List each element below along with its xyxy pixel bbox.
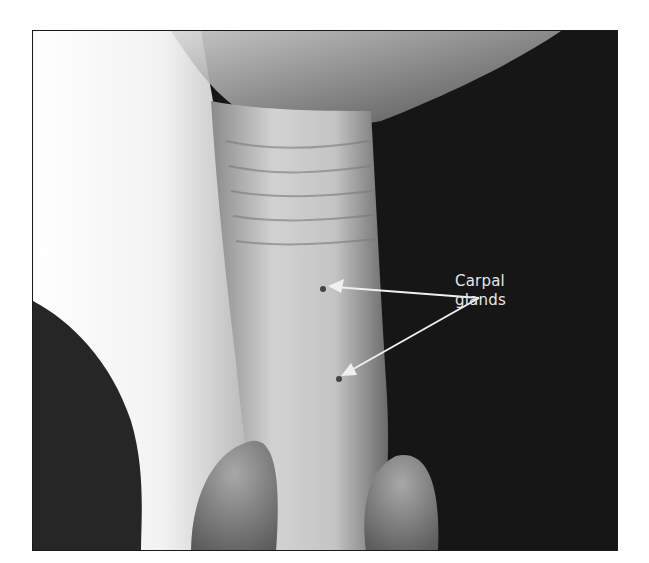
label-line-2: glands: [455, 291, 506, 310]
gland-spot-upper: [320, 286, 326, 292]
carpal-glands-label: Carpal glands: [455, 272, 506, 310]
photo-frame: [32, 30, 618, 551]
label-line-1: Carpal: [455, 272, 506, 291]
goat-foreleg-photo: [33, 31, 618, 551]
gland-spot-lower: [336, 376, 342, 382]
